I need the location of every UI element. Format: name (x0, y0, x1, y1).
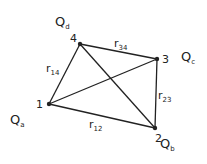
point-1 (47, 102, 51, 106)
r23-label: r23 (158, 89, 171, 104)
diagonal-1-3 (49, 59, 157, 104)
point-3 (155, 57, 159, 61)
point-3-label: 3 (162, 53, 169, 66)
r12-label: r12 (89, 118, 102, 133)
edge-2-3 (155, 59, 157, 128)
charge-d-label: Qd (55, 14, 70, 31)
point-4-label: 4 (70, 32, 77, 45)
point-2 (153, 126, 157, 130)
charge-b-label: Qb (160, 136, 175, 153)
charge-c-label: Qc (181, 49, 195, 66)
point-1-label: 1 (36, 98, 43, 111)
charge-diagram: 1 2 3 4 Qa Qb Qc Qd r12 r23 r34 r14 (0, 0, 207, 164)
r14-label: r14 (46, 62, 60, 77)
charge-a-label: Qa (10, 112, 25, 129)
point-4 (78, 42, 82, 46)
r34-label: r34 (114, 37, 128, 52)
